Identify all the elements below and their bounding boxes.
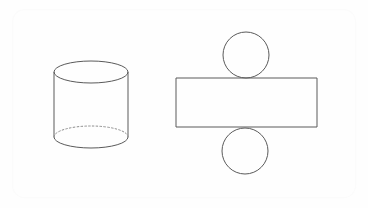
rounded-card-border [13, 10, 356, 198]
net-bottom-circle [222, 128, 268, 174]
cylinder-3d [54, 61, 128, 148]
figure-canvas: Cylinder and its net [0, 0, 368, 208]
cylinder-top-ellipse [54, 61, 128, 83]
cylinder-net [176, 32, 317, 174]
net-lateral-rectangle [176, 78, 317, 127]
cylinder-bottom-hidden-arc [54, 126, 128, 137]
geometry-illustration [0, 0, 368, 208]
cylinder-bottom-front-arc [54, 137, 128, 148]
net-top-circle [223, 32, 269, 78]
